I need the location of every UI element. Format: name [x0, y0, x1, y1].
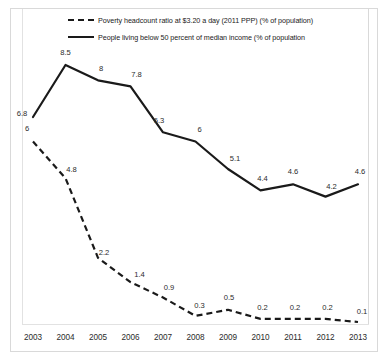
data-point-label: 0.5 [224, 292, 235, 301]
data-point-label: 0.9 [164, 282, 175, 291]
x-axis-tick-label: 2013 [349, 333, 367, 342]
data-point-label: 1.4 [134, 270, 145, 279]
data-point-label: 0.2 [257, 302, 268, 311]
x-axis-tick-label: 2008 [186, 333, 204, 342]
data-point-label: 6 [197, 125, 201, 134]
x-axis-tick-labels: 2003200420052006200720082009201020112012… [22, 330, 369, 348]
x-axis-tick-label: 2004 [56, 333, 74, 342]
data-point-label: 4.8 [66, 165, 77, 174]
data-point-label: 7.8 [131, 70, 142, 79]
data-point-label: 6 [25, 124, 29, 133]
data-point-label: 0.1 [357, 307, 368, 316]
data-point-label: 8 [99, 64, 103, 73]
x-axis-tick-label: 2003 [24, 333, 42, 342]
x-axis-tick-label: 2006 [121, 333, 139, 342]
data-point-label: 4.6 [355, 167, 366, 176]
x-axis-tick-label: 2007 [154, 333, 172, 342]
data-point-label: 6.8 [17, 109, 28, 118]
data-point-label: 8.5 [60, 48, 71, 57]
data-point-label: 4.2 [326, 181, 337, 190]
x-axis-tick-label: 2005 [89, 333, 107, 342]
data-point-label: 4.4 [257, 174, 268, 183]
series-line-below-median-income [33, 65, 358, 197]
data-point-label: 5.1 [230, 154, 241, 163]
series-line-poverty-headcount [33, 142, 358, 323]
x-axis-tick-label: 2012 [316, 333, 334, 342]
data-point-label: 0.2 [322, 302, 333, 311]
data-point-label: 4.6 [288, 167, 299, 176]
data-point-label: 2.2 [99, 247, 110, 256]
data-point-label: 0.2 [290, 302, 301, 311]
x-axis-tick-label: 2009 [219, 333, 237, 342]
line-chart: Poverty headcount ratio at $3.20 a day (… [0, 0, 386, 363]
data-point-label: 0.3 [194, 300, 205, 309]
x-axis-tick-label: 2011 [284, 333, 302, 342]
data-point-label: 6.3 [154, 116, 165, 125]
x-axis-tick-label: 2010 [251, 333, 269, 342]
